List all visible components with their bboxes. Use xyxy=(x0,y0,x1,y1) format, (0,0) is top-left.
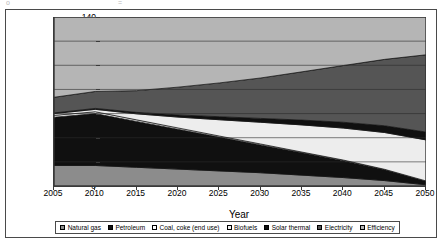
x-tick-mark xyxy=(218,186,219,190)
x-tick-mark xyxy=(342,186,343,190)
y-tick-mark xyxy=(96,138,100,139)
legend-item-label: Petroleum xyxy=(115,224,145,231)
legend-item[interactable]: Biofuels xyxy=(227,224,258,231)
x-axis-ticks: 2005201020152020202520302035204020452050 xyxy=(53,188,425,202)
scan-artifact: o = xyxy=(0,0,443,9)
y-tick-mark xyxy=(96,65,100,66)
legend-swatch-icon xyxy=(108,225,113,230)
legend-item-label: Natural gas xyxy=(68,224,101,231)
scan-artifact-left: o xyxy=(6,0,10,7)
y-tick-mark xyxy=(96,186,100,187)
y-tick-mark xyxy=(96,17,100,18)
x-tick-mark xyxy=(136,186,137,190)
legend-swatch-icon xyxy=(360,225,365,230)
chart-page: o = Quadrillion Btu 020406080100120140 2… xyxy=(0,0,443,246)
legend-item-label: Coal, coke (end use) xyxy=(160,224,220,231)
legend-item-label: Solar thermal xyxy=(272,224,311,231)
x-tick-mark xyxy=(425,186,426,190)
x-tick-mark xyxy=(260,186,261,190)
plot-wrapper: Quadrillion Btu 020406080100120140 20052… xyxy=(53,17,425,186)
x-tick-mark xyxy=(94,186,95,190)
x-axis-label: Year xyxy=(53,209,425,220)
legend-item[interactable]: Natural gas xyxy=(60,224,101,231)
legend-swatch-icon xyxy=(317,225,322,230)
legend-swatch-icon xyxy=(227,225,232,230)
stacked-area-svg xyxy=(54,17,426,186)
legend-item[interactable]: Efficiency xyxy=(360,224,395,231)
legend-item[interactable]: Electricity xyxy=(317,224,352,231)
legend-item[interactable]: Solar thermal xyxy=(264,224,310,231)
chart-frame: Quadrillion Btu 020406080100120140 20052… xyxy=(5,9,437,238)
legend-item-label: Biofuels xyxy=(234,224,257,231)
y-tick-mark xyxy=(96,162,100,163)
y-tick-mark xyxy=(96,114,100,115)
x-tick-mark xyxy=(301,186,302,190)
legend-item[interactable]: Coal, coke (end use) xyxy=(152,224,219,231)
legend-item[interactable]: Petroleum xyxy=(108,224,145,231)
x-tick-mark xyxy=(53,186,54,190)
legend-item-label: Efficiency xyxy=(367,224,395,231)
plot-area xyxy=(53,17,426,187)
x-tick-mark xyxy=(384,186,385,190)
legend-item-label: Electricity xyxy=(325,224,353,231)
scan-artifact-right: = xyxy=(118,0,122,7)
chart-legend: Natural gasPetroleumCoal, coke (end use)… xyxy=(55,221,400,234)
legend-swatch-icon xyxy=(60,225,65,230)
y-tick-mark xyxy=(96,41,100,42)
y-tick-mark xyxy=(96,89,100,90)
x-tick-mark xyxy=(177,186,178,190)
legend-swatch-icon xyxy=(264,225,269,230)
legend-swatch-icon xyxy=(152,225,157,230)
